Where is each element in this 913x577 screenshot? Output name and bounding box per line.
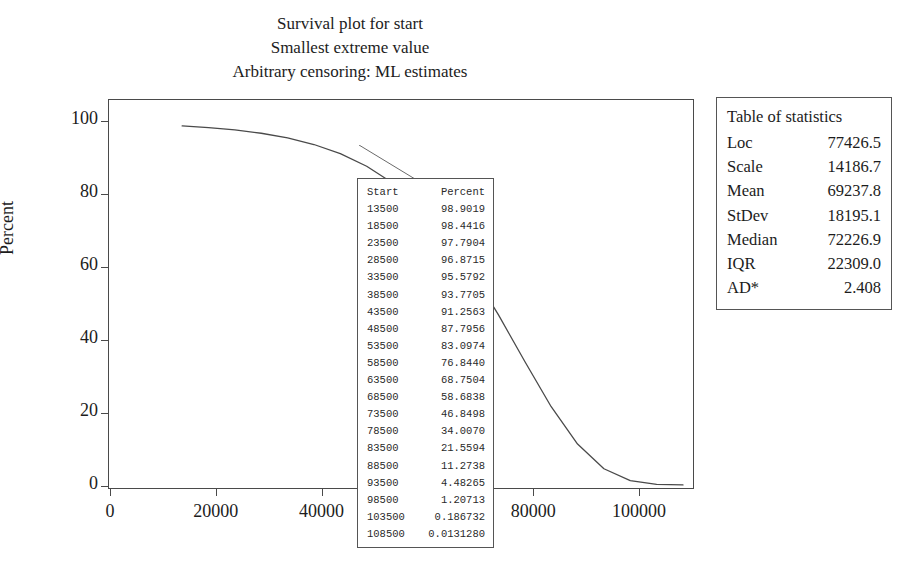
y-axis-tick-mark bbox=[101, 194, 108, 195]
data-table-row: 935004.48265 bbox=[365, 475, 486, 492]
data-table-cell-start: 68500 bbox=[365, 389, 414, 406]
data-table-cell-start: 73500 bbox=[365, 406, 414, 423]
data-table-cell-percent: 11.2738 bbox=[414, 458, 486, 475]
data-table-cell-start: 93500 bbox=[365, 475, 414, 492]
data-table-row: 2350097.7904 bbox=[365, 235, 486, 252]
x-axis-tick-label: 20000 bbox=[193, 501, 238, 522]
data-table-header-percent: Percent bbox=[414, 184, 486, 201]
data-table-cell-percent: 0.0131280 bbox=[414, 526, 486, 543]
statistics-label: Loc bbox=[727, 131, 802, 155]
data-table-row: 5850076.8440 bbox=[365, 355, 486, 372]
statistics-row: Median72226.9 bbox=[727, 228, 881, 252]
data-table-row: 1850098.4416 bbox=[365, 218, 486, 235]
statistics-label: StDev bbox=[727, 204, 802, 228]
data-table-cell-percent: 21.5594 bbox=[414, 440, 486, 457]
y-axis-tick-label: 40 bbox=[34, 327, 98, 348]
statistics-row: AD*2.408 bbox=[727, 276, 881, 300]
data-table-header-row: Start Percent bbox=[365, 184, 486, 201]
statistics-label: AD* bbox=[727, 276, 802, 300]
y-axis-tick-mark bbox=[101, 486, 108, 487]
data-table-row: 5350083.0974 bbox=[365, 338, 486, 355]
data-table-row: 1350098.9019 bbox=[365, 201, 486, 218]
data-table-row: 4850087.7956 bbox=[365, 321, 486, 338]
data-table-cell-start: 98500 bbox=[365, 492, 414, 509]
data-table-cell-percent: 91.2563 bbox=[414, 304, 486, 321]
data-table-cell-percent: 34.0070 bbox=[414, 423, 486, 440]
data-table-cell-start: 33500 bbox=[365, 269, 414, 286]
data-table-row: 3350095.5792 bbox=[365, 269, 486, 286]
y-axis-tick-label: 20 bbox=[34, 400, 98, 421]
statistics-row: Mean69237.8 bbox=[727, 179, 881, 203]
statistics-label: Scale bbox=[727, 155, 802, 179]
data-table-cell-start: 18500 bbox=[365, 218, 414, 235]
data-table-cell-percent: 1.20713 bbox=[414, 492, 486, 509]
data-table-cell-percent: 46.8498 bbox=[414, 406, 486, 423]
start-percent-data-table: Start Percent 1350098.90191850098.441623… bbox=[357, 178, 494, 548]
data-table-row: 8850011.2738 bbox=[365, 458, 486, 475]
x-axis-tick-label: 80000 bbox=[511, 501, 556, 522]
data-table-row: 7350046.8498 bbox=[365, 406, 486, 423]
chart-title-line-2: Smallest extreme value bbox=[0, 36, 700, 60]
data-table-cell-percent: 83.0974 bbox=[414, 338, 486, 355]
y-axis-tick-label: 80 bbox=[34, 181, 98, 202]
statistics-label: Mean bbox=[727, 179, 802, 203]
data-table-cell-start: 23500 bbox=[365, 235, 414, 252]
x-axis-tick-label: 40000 bbox=[299, 501, 344, 522]
data-table-cell-percent: 76.8440 bbox=[414, 355, 486, 372]
data-table: Start Percent 1350098.90191850098.441623… bbox=[365, 184, 486, 543]
data-table-row: 1035000.186732 bbox=[365, 509, 486, 526]
data-table-cell-start: 13500 bbox=[365, 201, 414, 218]
data-table-cell-start: 63500 bbox=[365, 372, 414, 389]
data-table-header-start: Start bbox=[365, 184, 414, 201]
statistics-row: IQR22309.0 bbox=[727, 252, 881, 276]
data-table-cell-start: 48500 bbox=[365, 321, 414, 338]
data-table-row: 985001.20713 bbox=[365, 492, 486, 509]
data-table-cell-percent: 4.48265 bbox=[414, 475, 486, 492]
statistics-value: 2.408 bbox=[802, 276, 881, 300]
statistics-value: 72226.9 bbox=[802, 228, 881, 252]
statistics-row: Loc77426.5 bbox=[727, 131, 881, 155]
statistics-row: Scale14186.7 bbox=[727, 155, 881, 179]
data-table-cell-percent: 93.7705 bbox=[414, 287, 486, 304]
data-table-cell-percent: 58.6838 bbox=[414, 389, 486, 406]
data-table-row: 1085000.0131280 bbox=[365, 526, 486, 543]
statistics-row: StDev18195.1 bbox=[727, 204, 881, 228]
x-axis-tick-label: 0 bbox=[106, 501, 115, 522]
statistics-table-body: Loc77426.5Scale14186.7Mean69237.8StDev18… bbox=[727, 131, 881, 300]
data-table-cell-percent: 98.9019 bbox=[414, 201, 486, 218]
data-table-cell-start: 88500 bbox=[365, 458, 414, 475]
statistics-box: Table of statistics Loc77426.5Scale14186… bbox=[716, 97, 892, 310]
statistics-table: Loc77426.5Scale14186.7Mean69237.8StDev18… bbox=[727, 131, 881, 300]
data-table-cell-percent: 0.186732 bbox=[414, 509, 486, 526]
data-table-cell-start: 38500 bbox=[365, 287, 414, 304]
data-table-cell-start: 103500 bbox=[365, 509, 414, 526]
statistics-value: 77426.5 bbox=[802, 131, 881, 155]
data-table-cell-start: 83500 bbox=[365, 440, 414, 457]
data-table-cell-percent: 87.7956 bbox=[414, 321, 486, 338]
y-axis-tick-mark bbox=[101, 413, 108, 414]
data-table-cell-start: 78500 bbox=[365, 423, 414, 440]
data-table-cell-start: 53500 bbox=[365, 338, 414, 355]
data-table-body: 1350098.90191850098.44162350097.79042850… bbox=[365, 201, 486, 543]
data-table-cell-start: 58500 bbox=[365, 355, 414, 372]
statistics-box-title: Table of statistics bbox=[727, 104, 881, 129]
statistics-label: IQR bbox=[727, 252, 802, 276]
x-axis-tick-mark bbox=[533, 489, 534, 496]
data-table-cell-percent: 95.5792 bbox=[414, 269, 486, 286]
x-axis-tick-mark bbox=[216, 489, 217, 496]
x-axis-tick-mark bbox=[110, 489, 111, 496]
chart-title-line-1: Survival plot for start bbox=[0, 12, 700, 36]
data-table-row: 3850093.7705 bbox=[365, 287, 486, 304]
chart-title-block: Survival plot for start Smallest extreme… bbox=[0, 12, 700, 84]
y-axis-title: Percent bbox=[0, 201, 18, 255]
data-table-cell-percent: 98.4416 bbox=[414, 218, 486, 235]
statistics-value: 22309.0 bbox=[802, 252, 881, 276]
x-axis-tick-mark bbox=[639, 489, 640, 496]
y-axis-tick-label: 60 bbox=[34, 254, 98, 275]
y-axis-tick-mark bbox=[101, 267, 108, 268]
data-table-cell-percent: 68.7504 bbox=[414, 372, 486, 389]
data-table-cell-start: 43500 bbox=[365, 304, 414, 321]
data-table-cell-percent: 96.8715 bbox=[414, 252, 486, 269]
y-axis-tick-mark bbox=[101, 121, 108, 122]
data-table-row: 6850058.6838 bbox=[365, 389, 486, 406]
